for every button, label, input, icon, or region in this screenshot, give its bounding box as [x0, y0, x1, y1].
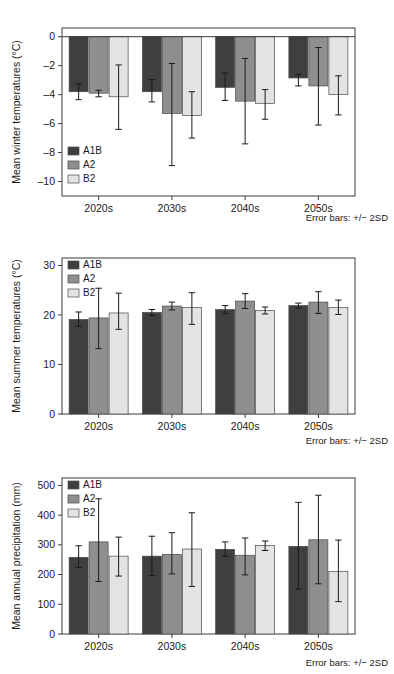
y-axis-title: Mean summer temperatures (°C): [10, 259, 22, 413]
x-axis-category-label: 2040s: [231, 202, 260, 214]
chart-panel-precipitation: 01002003004005002020s2030s2040s2050sMean…: [0, 454, 394, 674]
bar-A1B-2040s: [216, 549, 235, 634]
legend-label-B2: B2: [83, 507, 96, 518]
x-axis-category-label: 2030s: [158, 640, 187, 652]
x-axis-category-label: 2040s: [231, 420, 260, 432]
y-tick-label: 0: [49, 408, 55, 420]
legend-label-B2: B2: [83, 173, 96, 184]
y-tick-label: 0: [49, 628, 55, 640]
y-tick-label: 30: [43, 259, 55, 271]
x-axis-category-label: 2020s: [84, 640, 113, 652]
y-tick-label: 0: [49, 30, 55, 42]
bar-A1B-2020s: [69, 557, 88, 634]
legend-label-A2: A2: [83, 493, 96, 504]
x-axis-category-label: 2030s: [158, 202, 187, 214]
legend-label-A1B: A1B: [83, 145, 102, 156]
legend-label-A2: A2: [83, 159, 96, 170]
error-bars-note: Error bars: +/− 2SD: [306, 657, 389, 668]
legend-swatch-B2: [68, 289, 79, 297]
bar-B2-2040s: [256, 310, 275, 414]
error-bars-note: Error bars: +/− 2SD: [306, 212, 389, 223]
legend-swatch-B2: [68, 175, 79, 183]
figure-page: 0–2–4–6–8–102020s2030s2040s2050sMean win…: [0, 0, 394, 674]
legend-label-A1B: A1B: [83, 259, 102, 270]
legend-swatch-A2: [68, 495, 79, 503]
y-tick-label: 400: [37, 509, 55, 521]
legend-swatch-A2: [68, 161, 79, 169]
x-axis-category-label: 2050s: [304, 640, 333, 652]
bar-A1B-2050s: [289, 37, 308, 78]
legend-label-B2: B2: [83, 287, 96, 298]
error-bars-note: Error bars: +/− 2SD: [306, 435, 389, 446]
y-tick-label: –2: [43, 59, 55, 71]
legend-label-A1B: A1B: [83, 479, 102, 490]
x-axis-category-label: 2030s: [158, 420, 187, 432]
y-tick-label: –6: [43, 117, 55, 129]
y-tick-label: 100: [37, 598, 55, 610]
chart-summer: 01020302020s2030s2040s2050sMean summer t…: [0, 228, 394, 454]
y-tick-label: 20: [43, 309, 55, 321]
y-tick-label: 300: [37, 538, 55, 550]
bar-A1B-2020s: [69, 319, 88, 414]
x-axis-category-label: 2050s: [304, 420, 333, 432]
y-tick-label: –8: [43, 146, 55, 158]
legend-label-A2: A2: [83, 273, 96, 284]
legend-swatch-A2: [68, 275, 79, 283]
y-axis-title: Mean winter temperatures (°C): [10, 40, 22, 184]
bar-B2-2050s: [329, 308, 348, 414]
x-axis-category-label: 2020s: [84, 202, 113, 214]
legend-swatch-A1B: [68, 481, 79, 489]
bar-A1B-2030s: [142, 312, 161, 414]
legend-swatch-B2: [68, 509, 79, 517]
bar-A2-2040s: [236, 301, 255, 414]
chart-precipitation: 01002003004005002020s2030s2040s2050sMean…: [0, 454, 394, 674]
y-tick-label: 200: [37, 568, 55, 580]
y-tick-label: 10: [43, 358, 55, 370]
chart-winter: 0–2–4–6–8–102020s2030s2040s2050sMean win…: [0, 0, 394, 228]
x-axis-category-label: 2040s: [231, 640, 260, 652]
bar-A2-2050s: [309, 302, 328, 414]
chart-panel-summer: 01020302020s2030s2040s2050sMean summer t…: [0, 228, 394, 454]
y-tick-label: 500: [37, 479, 55, 491]
bar-A1B-2040s: [216, 310, 235, 414]
legend-swatch-A1B: [68, 147, 79, 155]
y-axis-title: Mean annual precipitation (mm): [10, 482, 22, 630]
legend-swatch-A1B: [68, 261, 79, 269]
bar-A2-2030s: [162, 306, 181, 414]
chart-panel-winter: 0–2–4–6–8–102020s2030s2040s2050sMean win…: [0, 0, 394, 228]
bar-A1B-2050s: [289, 306, 308, 414]
y-tick-label: –10: [37, 175, 55, 187]
bar-B2-2040s: [256, 545, 275, 634]
bar-A2-2020s: [89, 37, 108, 93]
y-tick-label: –4: [43, 88, 55, 100]
x-axis-category-label: 2020s: [84, 420, 113, 432]
